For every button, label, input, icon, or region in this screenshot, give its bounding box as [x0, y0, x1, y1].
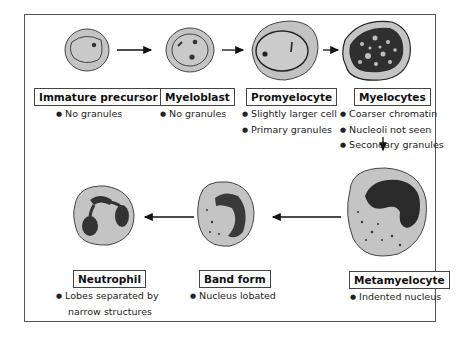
note-continuation: narrow structures — [56, 305, 159, 321]
metamyelocyte-cell-icon — [348, 168, 427, 256]
note: Nucleoli not seen — [340, 123, 444, 139]
stage-notes-metamyelocyte: Indented nucleus — [350, 290, 441, 306]
myeloblast-cell-icon — [166, 28, 214, 72]
stage-label-promyelocyte: Promyelocyte — [246, 88, 337, 106]
stage-notes-immature-precursor: No granules — [56, 107, 122, 123]
myelocyte-cell-icon — [343, 21, 411, 80]
note: Secondary granules — [340, 138, 444, 154]
band-form-cell-icon — [198, 182, 254, 246]
stage-notes-band-form: Nucleus lobated — [190, 289, 276, 305]
stage-label-neutrophil: Neutrophil — [73, 270, 146, 288]
stage-notes-neutrophil: Lobes separated by narrow structures — [56, 289, 159, 320]
stage-label-band-form: Band form — [199, 270, 271, 288]
note: No granules — [160, 107, 226, 123]
note: Nucleus lobated — [190, 289, 276, 305]
stage-label-immature-precursor: Immature precursor — [34, 88, 163, 106]
promyelocyte-cell-icon — [252, 21, 318, 80]
note: Indented nucleus — [350, 290, 441, 306]
note: Coarser chromatin — [340, 107, 444, 123]
stage-notes-myeloblast: No granules — [160, 107, 226, 123]
stage-notes-myelocytes: Coarser chromatin Nucleoli not seen Seco… — [340, 107, 444, 154]
note: Primary granules — [242, 123, 337, 139]
stage-label-myelocytes: Myelocytes — [354, 88, 431, 106]
note: No granules — [56, 107, 122, 123]
note: Lobes separated by — [56, 289, 159, 305]
neutrophil-cell-icon — [74, 186, 134, 245]
immature-precursor-cell-icon — [65, 29, 109, 71]
stage-label-myeloblast: Myeloblast — [160, 88, 235, 106]
stage-label-metamyelocyte: Metamyelocyte — [349, 271, 450, 289]
stage-notes-promyelocyte: Slightly larger cell Primary granules — [242, 107, 337, 138]
note: Slightly larger cell — [242, 107, 337, 123]
